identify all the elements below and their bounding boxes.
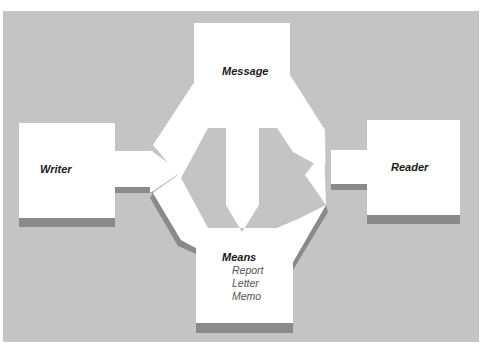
writer-label: Writer <box>40 163 72 175</box>
communication-diagram <box>0 0 491 358</box>
means-item-memo: Memo <box>232 290 261 303</box>
reader-connector <box>331 150 369 184</box>
means-item-letter: Letter <box>232 277 259 290</box>
message-label: Message <box>222 65 268 77</box>
means-item-report: Report <box>232 264 264 277</box>
reader-label: Reader <box>391 161 428 173</box>
means-label: Means <box>222 251 256 263</box>
writer-connector <box>113 151 153 187</box>
